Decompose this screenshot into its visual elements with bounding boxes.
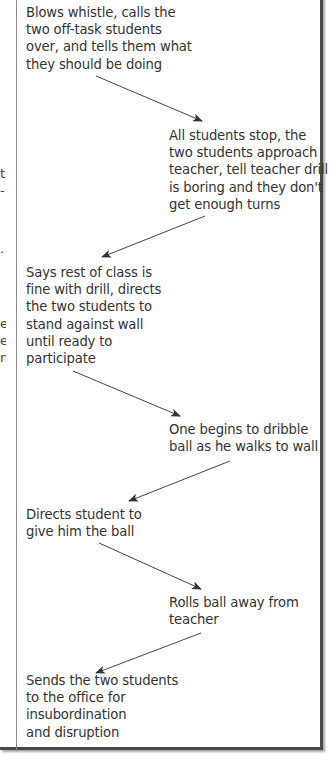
- arrow-5-to-6: [99, 543, 201, 589]
- arrow-4-to-5: [129, 461, 230, 501]
- arrow-1-to-2: [96, 76, 202, 121]
- arrow-2-to-3: [102, 216, 205, 257]
- flow-arrows: [0, 0, 330, 774]
- arrow-3-to-4: [73, 371, 180, 416]
- arrow-6-to-7: [96, 633, 201, 673]
